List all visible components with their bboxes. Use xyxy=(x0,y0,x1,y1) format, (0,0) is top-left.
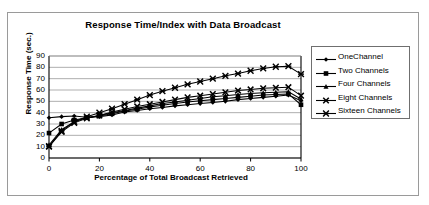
legend-label: Four Channels xyxy=(337,78,390,89)
legend-item-two-channels[interactable]: Two Channels xyxy=(315,64,407,77)
legend-label: Two Channels xyxy=(337,65,389,76)
chart-figure: Response Time/Index with Data Broadcast … xyxy=(7,12,419,196)
y-tick-label: 50 xyxy=(25,97,45,105)
legend-item-four-channels[interactable]: Four Channels xyxy=(315,77,407,90)
legend-label: Eight Channels xyxy=(337,92,392,103)
y-tick-label: 0 xyxy=(25,154,45,162)
square-marker-icon xyxy=(315,65,337,76)
chart-legend: OneChannelTwo ChannelsFour ChannelsEight… xyxy=(311,46,410,119)
y-tick-label: 60 xyxy=(25,86,45,94)
y-tick-label: 80 xyxy=(25,63,45,71)
legend-item-sixteen-channels[interactable]: Sixteen Channels xyxy=(315,104,407,117)
x-marker-icon xyxy=(315,92,337,103)
legend-item-onechannel[interactable]: OneChannel xyxy=(315,50,407,63)
x-tick-label: 80 xyxy=(239,165,263,173)
page-top-margin xyxy=(0,0,429,7)
y-tick-label: 90 xyxy=(25,52,45,60)
y-tick-label: 30 xyxy=(25,120,45,128)
triangle-marker-icon xyxy=(315,78,337,89)
x-tick-label: 0 xyxy=(37,165,61,173)
y-tick-label: 40 xyxy=(25,109,45,117)
legend-label: OneChannel xyxy=(337,51,383,62)
asterisk-marker-icon xyxy=(315,105,337,116)
y-tick-label: 70 xyxy=(25,75,45,83)
y-tick-label: 20 xyxy=(25,131,45,139)
x-tick-label: 20 xyxy=(87,165,111,173)
data-series-layer xyxy=(46,63,304,149)
x-tick-label: 40 xyxy=(138,165,162,173)
x-tick-label: 60 xyxy=(188,165,212,173)
y-tick-label: 10 xyxy=(25,143,45,151)
series-two-channels xyxy=(47,92,304,136)
x-tick-label: 100 xyxy=(289,165,313,173)
legend-item-eight-channels[interactable]: Eight Channels xyxy=(315,91,407,104)
diamond-marker-icon xyxy=(315,51,337,62)
legend-label: Sixteen Channels xyxy=(337,105,401,116)
